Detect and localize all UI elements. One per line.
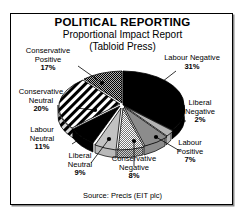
chart-figure: POLITICAL REPORTING Proportional Impact … [0, 0, 246, 219]
label-value: 8% [103, 172, 165, 181]
slice-label-conservative-positive: Conservative Positive 17% [17, 47, 79, 73]
label-value: 9% [57, 169, 103, 178]
slice-label-liberal-negative: Liberal Negative 2% [176, 99, 224, 125]
label-value: 17% [17, 64, 79, 73]
leader-dot-labour-negative [156, 83, 160, 87]
label-value: 7% [168, 156, 212, 165]
label-value: 11% [17, 143, 67, 152]
leader-dot-labour-neutral [90, 129, 94, 133]
leader-dot-conservative-negative [132, 139, 136, 143]
slice-label-labour-positive: Labour Positive 7% [168, 139, 212, 165]
leader-dot-liberal-negative [160, 119, 164, 123]
slice-label-liberal-neutral: Liberal Neutral 9% [57, 152, 103, 178]
leader-dot-liberal-neutral [107, 137, 111, 141]
label-value: 20% [8, 105, 74, 114]
leader-dot-conservative-positive [100, 81, 104, 85]
label-value: 31% [152, 63, 232, 72]
leader-dot-labour-positive [154, 135, 158, 139]
slice-label-labour-neutral: Labour Neutral 11% [17, 126, 67, 152]
slice-label-labour-negative: Labour Negative 31% [152, 54, 232, 71]
label-value: 2% [176, 116, 224, 125]
slice-label-conservative-negative: Conservative Negative 8% [103, 155, 165, 181]
leader-dot-conservative-neutral [93, 108, 97, 112]
slice-label-conservative-neutral: Conservative Neutral 20% [8, 88, 74, 114]
